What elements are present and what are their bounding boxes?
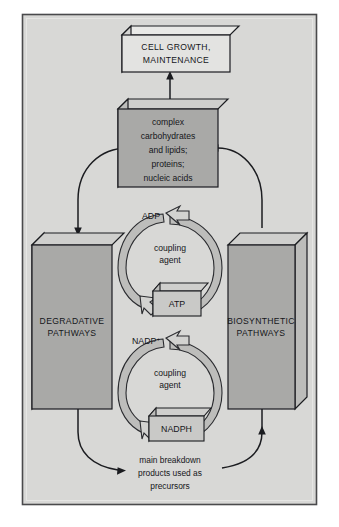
macromolecules-label-line4: proteins; xyxy=(152,159,185,169)
metabolism-diagram: coupling agent ADP coupling agent NADP+ … xyxy=(0,0,339,527)
caption-line3: precursors xyxy=(150,481,190,491)
nadp-label-text: NADP xyxy=(132,336,157,346)
degradative-label-line1: DEGRADATIVE xyxy=(40,316,105,326)
nadp-superscript: + xyxy=(156,335,160,342)
biosynthetic-label-line2: PATHWAYS xyxy=(237,328,286,338)
macromolecules-label-line3: and lipids; xyxy=(149,145,188,155)
biosynthetic-box-right-face xyxy=(295,233,307,409)
nadph-cycle-center-label-line1: coupling xyxy=(154,368,186,378)
atp-box: ATP xyxy=(153,283,208,316)
caption-line2: products used as xyxy=(138,468,202,478)
cell-growth-box-top-face xyxy=(122,26,239,35)
biosynthetic-box-top-face xyxy=(228,233,307,245)
macromolecules-label-line5: nucleic acids xyxy=(143,173,192,183)
nadph-box-top-face xyxy=(149,408,211,416)
degradative-pathways-box: DEGRADATIVE PATHWAYS xyxy=(32,233,124,409)
biosynthetic-pathways-box: BIOSYNTHETIC PATHWAYS xyxy=(227,233,307,409)
atp-label: ATP xyxy=(169,299,186,309)
degradative-box-front-face xyxy=(32,245,112,409)
cell-growth-box-front-face xyxy=(122,35,230,72)
adp-label: ADP xyxy=(142,211,160,221)
biosynthetic-label-line1: BIOSYNTHETIC xyxy=(227,316,295,326)
atp-box-top-face xyxy=(153,283,208,291)
diagram-canvas: coupling agent ADP coupling agent NADP+ … xyxy=(0,0,339,527)
biosynthetic-box-front-face xyxy=(228,245,295,409)
cell-growth-label-line1: CELL GROWTH, xyxy=(141,42,210,52)
cell-growth-label-line2: MAINTENANCE xyxy=(143,55,209,65)
degradative-box-top-face xyxy=(32,233,124,245)
nadph-box: NADPH xyxy=(149,408,211,441)
nadph-label: NADPH xyxy=(161,424,192,434)
nadp-label: NADP+ xyxy=(132,335,160,347)
caption-line1: main breakdown xyxy=(139,455,201,465)
degradative-label-line2: PATHWAYS xyxy=(48,328,97,338)
macromolecules-box-top-face xyxy=(118,99,228,109)
nadph-cycle-center-label-line2: agent xyxy=(159,380,181,390)
macromolecules-label-line2: carbohydrates xyxy=(141,131,195,141)
atp-cycle-center-label-line2: agent xyxy=(159,255,181,265)
macromolecules-label-line1: complex xyxy=(152,117,185,127)
macromolecules-box: complex carbohydrates and lipids; protei… xyxy=(118,99,228,187)
atp-cycle-center-label-line1: coupling xyxy=(154,243,186,253)
cell-growth-box: CELL GROWTH, MAINTENANCE xyxy=(122,26,239,72)
